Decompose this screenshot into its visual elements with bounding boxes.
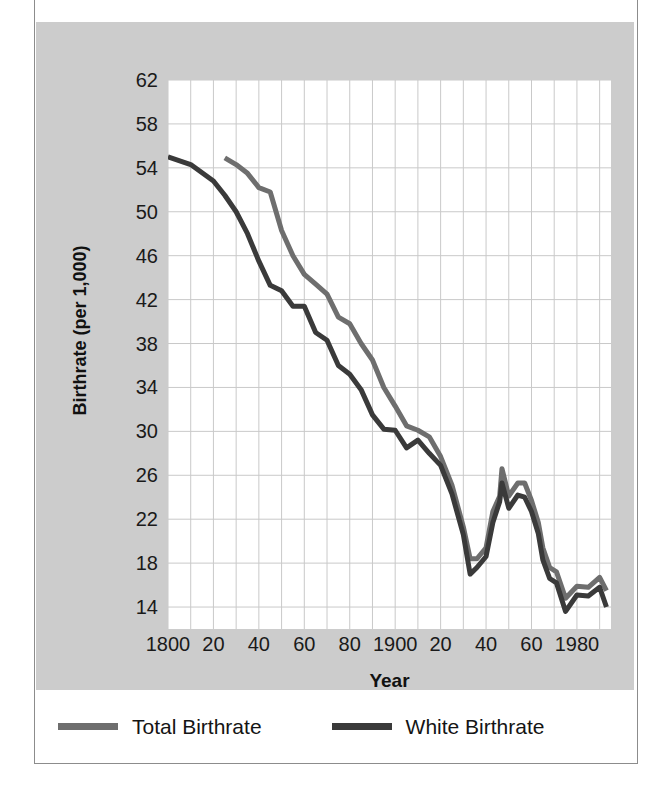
y-axis-tick-label: 30 xyxy=(136,421,158,441)
x-axis-tick-label: 1900 xyxy=(373,634,418,654)
chart-legend: Total Birthrate White Birthrate xyxy=(36,690,634,763)
series-line-white-birthrate xyxy=(168,157,606,612)
x-axis-tick-label: 20 xyxy=(429,634,451,654)
legend-swatch-white-birthrate xyxy=(332,723,392,730)
chart-figure: Birthrate (per 1,000) 625854504642383430… xyxy=(0,0,656,793)
y-axis-tick-label: 42 xyxy=(136,290,158,310)
y-axis-tick-label: 54 xyxy=(136,158,158,178)
legend-label-total-birthrate: Total Birthrate xyxy=(132,716,262,737)
y-axis-tick-label: 18 xyxy=(136,553,158,573)
x-axis-tick-label: 20 xyxy=(202,634,224,654)
x-axis-ticks: 18002040608019002040601980 xyxy=(168,634,611,664)
y-axis-tick-label: 22 xyxy=(136,509,158,529)
x-axis-title: Year xyxy=(168,670,611,692)
series-lines xyxy=(168,157,606,612)
legend-item-total-birthrate: Total Birthrate xyxy=(58,716,262,737)
legend-item-white-birthrate: White Birthrate xyxy=(332,716,545,737)
plot-svg xyxy=(168,80,611,629)
y-axis-tick-label: 14 xyxy=(136,597,158,617)
plot-area xyxy=(168,80,611,629)
x-axis-tick-label: 1800 xyxy=(146,634,191,654)
legend-label-white-birthrate: White Birthrate xyxy=(406,716,545,737)
y-axis-tick-label: 50 xyxy=(136,202,158,222)
y-axis-ticks: 62585450464238343026221814 xyxy=(96,80,162,629)
y-axis-tick-label: 38 xyxy=(136,334,158,354)
y-axis-tick-label: 58 xyxy=(136,114,158,134)
y-axis-tick-label: 34 xyxy=(136,377,158,397)
y-axis-tick-label: 46 xyxy=(136,246,158,266)
x-axis-tick-label: 1980 xyxy=(555,634,600,654)
x-axis-tick-label: 40 xyxy=(248,634,270,654)
y-axis-tick-label: 26 xyxy=(136,465,158,485)
y-axis-tick-label: 62 xyxy=(136,70,158,90)
x-axis-tick-label: 40 xyxy=(475,634,497,654)
chart-canvas: Birthrate (per 1,000) 625854504642383430… xyxy=(36,22,634,690)
legend-swatch-total-birthrate xyxy=(58,723,118,730)
x-axis-tick-label: 60 xyxy=(520,634,542,654)
y-axis-title: Birthrate (per 1,000) xyxy=(70,191,91,471)
x-axis-tick-label: 60 xyxy=(293,634,315,654)
x-axis-tick-label: 80 xyxy=(339,634,361,654)
